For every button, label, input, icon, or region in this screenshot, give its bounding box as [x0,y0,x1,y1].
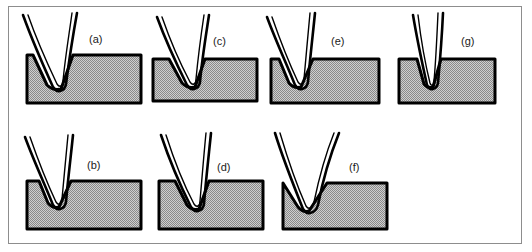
figure-frame: (a) (c) (e) (g) [8,6,522,244]
panel-e [267,13,379,103]
panel-label-e: (e) [331,35,344,47]
panel-d [159,133,263,229]
panel-a [23,13,141,103]
die-block-c [153,59,257,101]
panel-label-b: (b) [87,159,100,171]
figure-root: (a) (c) (e) (g) [0,0,532,252]
panel-label-g: (g) [461,35,474,47]
panel-c [153,15,257,101]
die-block-a [27,55,141,103]
panel-b [25,135,141,229]
panel-label-d: (d) [217,161,230,173]
panel-f [275,133,387,229]
die-block-d [159,181,263,229]
panel-label-a: (a) [89,33,102,45]
die-block-b [27,181,141,229]
panel-label-c: (c) [213,35,226,47]
panel-label-f: (f) [349,161,359,173]
bending-operations-diagram: (a) (c) (e) (g) [9,7,523,245]
die-block-g [399,59,495,103]
panel-g [399,13,495,103]
